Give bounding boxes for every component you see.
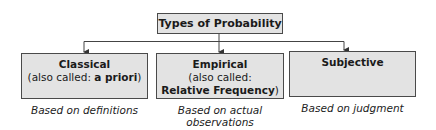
empirical-box: Empirical (also called: Relative Frequen… xyxy=(156,53,284,99)
empirical-note-line2: Relative Frequency) xyxy=(157,84,283,97)
subjective-caption: Based on judgment xyxy=(289,102,416,114)
classical-note: (also called: a priori) xyxy=(22,71,147,84)
classical-caption: Based on definitions xyxy=(21,104,148,116)
empirical-note-line1: (also called: xyxy=(157,71,283,84)
title-box: Types of Probability xyxy=(157,13,283,34)
classical-label: Classical xyxy=(22,58,147,71)
empirical-label: Empirical xyxy=(157,58,283,71)
diagram-title: Types of Probability xyxy=(158,17,281,30)
classical-box: Classical (also called: a priori) xyxy=(21,53,148,99)
empirical-caption: Based on actual observations xyxy=(156,104,284,128)
subjective-label: Subjective xyxy=(290,56,415,69)
subjective-box: Subjective xyxy=(289,51,416,97)
